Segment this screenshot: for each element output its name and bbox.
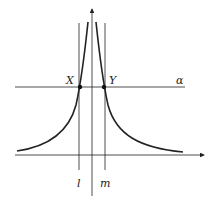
point-x	[78, 85, 82, 89]
point-y	[102, 85, 106, 89]
label-line-m: m	[100, 177, 110, 190]
label-point-x: X	[65, 74, 75, 87]
label-line-alpha: α	[176, 74, 184, 87]
label-point-y: Y	[109, 74, 118, 87]
hyperbola-diagram: X Y α l m	[0, 0, 214, 211]
label-line-l: l	[77, 177, 81, 190]
curve-left-branch	[17, 22, 88, 151]
